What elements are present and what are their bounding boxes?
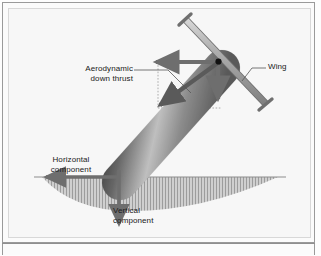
label-aerodynamic-down-thrust: Aerodynamic down thrust [55, 64, 133, 83]
label-wing: Wing [268, 62, 308, 72]
label-horizontal-component: Horizontal component [36, 155, 106, 174]
lower-panel [2, 244, 315, 255]
hub-dot [215, 58, 221, 64]
label-vertical-component: Vertical component [113, 206, 179, 225]
hull-body [120, 68, 222, 182]
figure-root: Aerodynamic down thrust Wing Horizontal … [0, 0, 321, 256]
